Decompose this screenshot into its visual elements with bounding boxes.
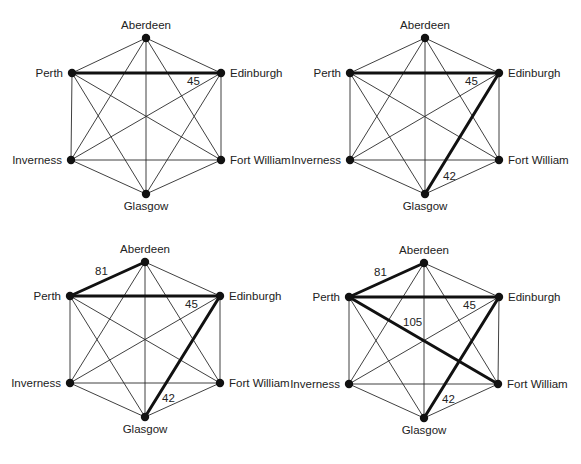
node-glasgow [420, 414, 428, 422]
node-inverness [66, 379, 74, 387]
node-label-perth: Perth [313, 291, 341, 303]
edge-aberdeen-fort-william [146, 38, 221, 160]
selected-edge-edinburgh-glasgow [425, 73, 499, 194]
node-aberdeen [420, 259, 428, 267]
edge-perth-glasgow [72, 73, 146, 194]
edge-weight-label: 105 [403, 316, 422, 328]
node-label-inverness: Inverness [291, 154, 341, 166]
node-label-fort-william: Fort William [230, 154, 291, 166]
edge-weight-label: 45 [187, 75, 200, 87]
edge-perth-inverness [71, 73, 72, 160]
node-label-glasgow: Glasgow [402, 424, 447, 436]
edge-weight-label: 81 [374, 266, 387, 278]
edge-aberdeen-fort-william [424, 263, 498, 384]
edge-perth-glasgow [70, 296, 145, 417]
node-aberdeen [142, 34, 150, 42]
node-aberdeen [141, 258, 149, 266]
node-label-aberdeen: Aberdeen [400, 19, 450, 31]
node-edinburgh [216, 292, 224, 300]
node-label-glasgow: Glasgow [123, 423, 168, 435]
edge-inverness-glasgow [71, 160, 146, 194]
node-label-edinburgh: Edinburgh [229, 290, 281, 302]
node-inverness [346, 156, 354, 164]
node-edinburgh [217, 69, 225, 77]
minimum-spanning-tree-diagram: 45AberdeenPerthEdinburghInvernessFort Wi… [0, 0, 581, 464]
node-label-edinburgh: Edinburgh [508, 67, 560, 79]
node-label-perth: Perth [36, 67, 64, 79]
node-glasgow [142, 190, 150, 198]
node-aberdeen [421, 34, 429, 42]
node-perth [66, 292, 74, 300]
edge-inverness-glasgow [350, 160, 425, 194]
selected-edge-edinburgh-glasgow [424, 297, 499, 418]
node-label-inverness: Inverness [11, 377, 61, 389]
node-inverness [345, 380, 353, 388]
edge-edinburgh-glasgow [146, 73, 221, 194]
graph-panel-step-1: 45AberdeenPerthEdinburghInvernessFort Wi… [12, 19, 291, 212]
node-glasgow [421, 190, 429, 198]
edge-weight-label: 45 [465, 75, 478, 87]
edge-weight-label: 81 [95, 265, 108, 277]
node-label-fort-william: Fort William [229, 377, 290, 389]
edge-aberdeen-inverness [350, 38, 425, 160]
node-label-aberdeen: Aberdeen [120, 243, 170, 255]
node-label-fort-william: Fort William [508, 154, 569, 166]
graph-panel-step-2: 4542AberdeenPerthEdinburghInvernessFort … [291, 19, 569, 212]
edge-fort-william-glasgow [146, 160, 221, 194]
edge-aberdeen-edinburgh [145, 262, 220, 296]
node-perth [345, 293, 353, 301]
node-label-glasgow: Glasgow [403, 200, 448, 212]
node-label-aberdeen: Aberdeen [399, 244, 449, 256]
node-edinburgh [495, 69, 503, 77]
node-label-perth: Perth [34, 290, 62, 302]
edge-aberdeen-inverness [71, 38, 146, 160]
node-label-perth: Perth [314, 67, 342, 79]
node-inverness [67, 156, 75, 164]
node-fort-william [216, 379, 224, 387]
node-edinburgh [495, 293, 503, 301]
edge-weight-label: 42 [162, 392, 175, 404]
node-fort-william [217, 156, 225, 164]
graph-panel-step-3: 814542AberdeenPerthEdinburghInvernessFor… [11, 243, 290, 435]
node-perth [346, 69, 354, 77]
node-label-aberdeen: Aberdeen [121, 19, 171, 31]
node-fort-william [495, 156, 503, 164]
edge-weight-label: 45 [185, 298, 198, 310]
edge-perth-glasgow [350, 73, 425, 194]
edge-weight-label: 42 [442, 393, 455, 405]
edge-inverness-glasgow [349, 384, 424, 418]
edge-weight-label: 42 [443, 170, 456, 182]
edge-aberdeen-fort-william [145, 262, 220, 383]
edge-aberdeen-fort-william [425, 38, 499, 160]
selected-edge-edinburgh-glasgow [145, 296, 220, 417]
node-label-edinburgh: Edinburgh [508, 291, 560, 303]
edge-edinburgh-fort-william [498, 297, 499, 384]
edge-inverness-glasgow [70, 383, 145, 417]
edge-weight-label: 45 [463, 299, 476, 311]
node-label-inverness: Inverness [12, 154, 62, 166]
node-perth [68, 69, 76, 77]
node-label-edinburgh: Edinburgh [230, 67, 282, 79]
graph-panel-step-4: 814510542AberdeenPerthEdinburghInverness… [290, 244, 568, 436]
node-label-glasgow: Glasgow [124, 200, 169, 212]
node-label-inverness: Inverness [290, 378, 340, 390]
edge-aberdeen-edinburgh [424, 263, 499, 297]
node-fort-william [494, 380, 502, 388]
node-glasgow [141, 413, 149, 421]
node-label-fort-william: Fort William [507, 378, 568, 390]
